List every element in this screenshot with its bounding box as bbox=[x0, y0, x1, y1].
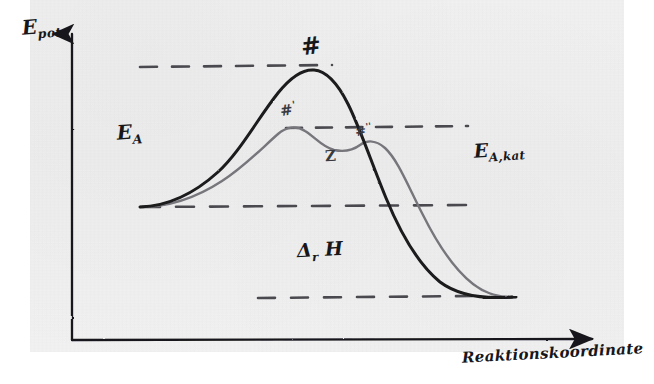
y-axis-label: Epot bbox=[21, 14, 62, 42]
dashed-level-transition-state bbox=[140, 65, 332, 67]
diagram-drawing-layer bbox=[0, 0, 654, 384]
transition-state-2-label: #'' bbox=[354, 121, 372, 138]
x-axis-line bbox=[72, 339, 592, 340]
dashed-level-products bbox=[258, 296, 472, 298]
product-plateau-stroke bbox=[484, 297, 516, 298]
dashed-level-catalyzed-peak bbox=[286, 126, 468, 128]
uncatalyzed-reaction-curve bbox=[140, 70, 512, 298]
activation-energy-label: EA bbox=[116, 121, 143, 147]
transition-state-label: # bbox=[300, 33, 323, 59]
transition-state-1-label: #' bbox=[279, 99, 297, 119]
reaction-enthalpy-label: Δr H bbox=[296, 239, 343, 265]
energy-diagram-figure: Epot EA EA,kat Δr H # #' #'' Z Reaktions… bbox=[0, 0, 654, 384]
dashed-level-reactants bbox=[142, 205, 470, 207]
activation-energy-catalyzed-label: EA,kat bbox=[473, 138, 525, 165]
intermediate-label: Z bbox=[325, 149, 337, 165]
